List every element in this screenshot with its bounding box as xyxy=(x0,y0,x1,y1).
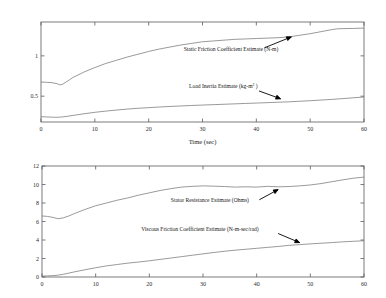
plot-axes-box xyxy=(41,22,364,122)
x-tick-label: 10 xyxy=(92,126,98,132)
series-curve-1 xyxy=(42,241,364,276)
x-tick-label: 0 xyxy=(40,126,43,132)
x-tick-label: 40 xyxy=(253,126,259,132)
x-tick-label: 60 xyxy=(361,126,367,132)
annotation-arrow-head-1 xyxy=(276,95,281,99)
x-tick-label: 10 xyxy=(93,281,99,287)
x-axis-title: Time (sec) xyxy=(189,138,217,146)
y-tick-label: 0.5 xyxy=(31,93,39,99)
x-tick-label: 0 xyxy=(41,281,44,287)
y-tick-label: 4 xyxy=(36,237,39,243)
annotation-tail: ) xyxy=(254,83,257,90)
y-tick-label: 1 xyxy=(35,53,38,59)
bottom-plot-panel: 0102030405060024681012Stator Resistance … xyxy=(0,152,386,298)
y-tick-label: 6 xyxy=(36,219,39,225)
annotation-arrow-head-0 xyxy=(273,190,278,194)
x-tick-label: 50 xyxy=(307,126,313,132)
matlab-figure-window: 01020304050600.51Static Friction Coeffic… xyxy=(0,0,386,298)
top-plot-panel: 01020304050600.51Static Friction Coeffic… xyxy=(0,0,386,152)
annotation-label-0: Static Friction Coefficient Estimate (N-… xyxy=(184,46,279,53)
x-tick-label: 20 xyxy=(146,126,152,132)
series-curve-1 xyxy=(41,97,364,117)
y-tick-label: 8 xyxy=(36,200,39,206)
y-tick-label: 2 xyxy=(36,256,39,262)
bottom-plot-svg: 0102030405060024681012Stator Resistance … xyxy=(0,152,386,298)
y-tick-label: 10 xyxy=(33,182,39,188)
series-curve-0 xyxy=(41,28,364,85)
y-tick-label: 12 xyxy=(33,163,39,169)
x-tick-label: 30 xyxy=(200,126,206,132)
annotation-arrow-head-1 xyxy=(295,239,300,243)
plot-axes-box xyxy=(42,166,364,277)
x-tick-label: 60 xyxy=(361,281,367,287)
y-tick-label: 0 xyxy=(36,274,39,280)
annotation-arrow-head-0 xyxy=(286,37,291,41)
x-tick-label: 40 xyxy=(254,281,260,287)
x-tick-label: 50 xyxy=(307,281,313,287)
x-tick-label: 30 xyxy=(200,281,206,287)
x-tick-label: 20 xyxy=(146,281,152,287)
annotation-label-1: Load Inertia Estimate (kg-m2 ) xyxy=(189,83,258,90)
annotation-label-1: Viscous Friction Coefficient Estimate (N… xyxy=(141,226,258,233)
annotation-label-0: Stator Resistance Estimate (Ohms) xyxy=(171,197,249,204)
top-plot-svg: 01020304050600.51Static Friction Coeffic… xyxy=(0,0,386,152)
